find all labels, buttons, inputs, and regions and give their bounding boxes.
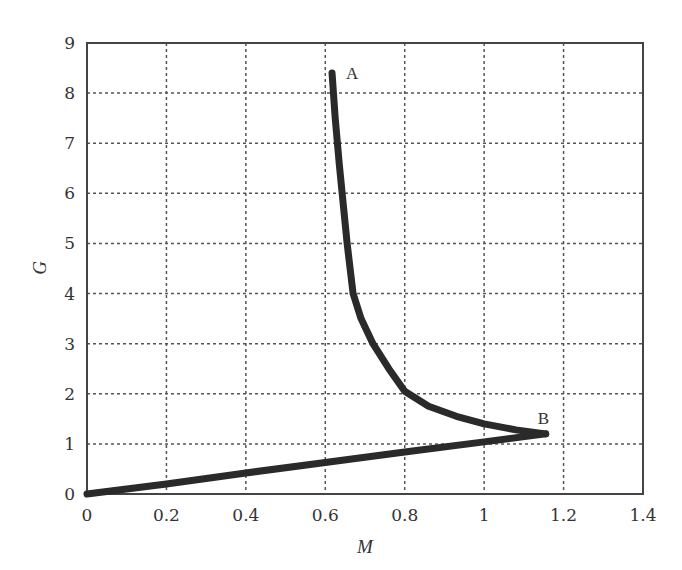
y-tick-label: 5 <box>64 233 75 253</box>
y-tick-label: 4 <box>64 284 75 304</box>
x-tick-label: 0.8 <box>391 505 418 525</box>
series-line <box>332 73 546 434</box>
grid-lines <box>87 43 643 494</box>
x-axis-label: M <box>356 536 374 557</box>
chart: 00.20.40.60.811.21.4 0123456789 A B M G <box>0 0 682 570</box>
x-tick-label: 1.2 <box>550 505 577 525</box>
y-tick-label: 3 <box>64 334 75 354</box>
point-b-label: B <box>538 409 549 428</box>
y-tick-label: 6 <box>64 183 75 203</box>
plot-frame <box>87 43 643 494</box>
x-tick-label: 0.6 <box>312 505 339 525</box>
y-axis-ticks: 0123456789 <box>64 33 75 504</box>
x-tick-label: 0.4 <box>232 505 259 525</box>
x-axis-ticks: 00.20.40.60.811.21.4 <box>82 505 657 525</box>
x-tick-label: 0 <box>82 505 93 525</box>
x-tick-label: 0.2 <box>153 505 180 525</box>
y-tick-label: 7 <box>64 133 75 153</box>
point-a-label: A <box>346 64 359 83</box>
y-tick-label: 2 <box>64 384 75 404</box>
y-tick-label: 0 <box>64 484 75 504</box>
y-tick-label: 1 <box>64 434 75 454</box>
x-tick-label: 1.4 <box>629 505 656 525</box>
y-tick-label: 8 <box>64 83 75 103</box>
x-tick-label: 1 <box>479 505 490 525</box>
y-tick-label: 9 <box>64 33 75 53</box>
data-series <box>87 73 546 494</box>
series-line <box>87 434 546 494</box>
y-axis-label: G <box>29 261 50 275</box>
